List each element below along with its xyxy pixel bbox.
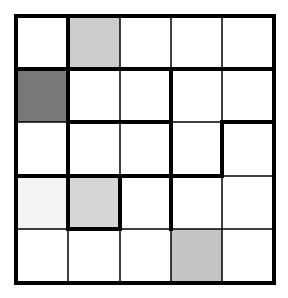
- grid-cell-r0-c0[interactable]: [16, 16, 68, 69]
- grid-cell-r4-c2[interactable]: [120, 229, 171, 283]
- grid-cell-r2-c4[interactable]: [222, 122, 274, 176]
- grid-cell-r3-c2[interactable]: [120, 176, 171, 229]
- grid-cell-r1-c3[interactable]: [171, 69, 222, 122]
- grid-cell-r0-c2[interactable]: [120, 16, 171, 69]
- grid-cell-r4-c3[interactable]: [171, 229, 222, 283]
- grid-cell-r3-c0[interactable]: [16, 176, 68, 229]
- grid-cell-r1-c1[interactable]: [68, 69, 120, 122]
- grid-cell-r4-c4[interactable]: [222, 229, 274, 283]
- grid-cell-r1-c0[interactable]: [16, 69, 68, 122]
- grid-cell-r0-c4[interactable]: [222, 16, 274, 69]
- grid-cell-r4-c0[interactable]: [16, 229, 68, 283]
- grid-cell-r1-c4[interactable]: [222, 69, 274, 122]
- grid-cell-r0-c3[interactable]: [171, 16, 222, 69]
- grid-cell-r2-c3[interactable]: [171, 122, 222, 176]
- grid-cells: [16, 16, 274, 283]
- grid-cell-r0-c1[interactable]: [68, 16, 120, 69]
- puzzle-board: [0, 0, 288, 298]
- grid-cell-r3-c4[interactable]: [222, 176, 274, 229]
- grid-cell-r2-c0[interactable]: [16, 122, 68, 176]
- grid-cell-r2-c1[interactable]: [68, 122, 120, 176]
- grid-cell-r4-c1[interactable]: [68, 229, 120, 283]
- grid-cell-r3-c3[interactable]: [171, 176, 222, 229]
- grid-cell-r1-c2[interactable]: [120, 69, 171, 122]
- grid-cell-r3-c1[interactable]: [68, 176, 120, 229]
- grid-cell-r2-c2[interactable]: [120, 122, 171, 176]
